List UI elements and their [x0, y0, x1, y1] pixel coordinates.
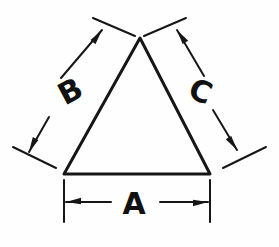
dimension-a-label: A — [122, 186, 146, 221]
figure-canvas: A B C — [0, 0, 279, 247]
triangle-dimension-figure: A B C — [0, 0, 279, 247]
